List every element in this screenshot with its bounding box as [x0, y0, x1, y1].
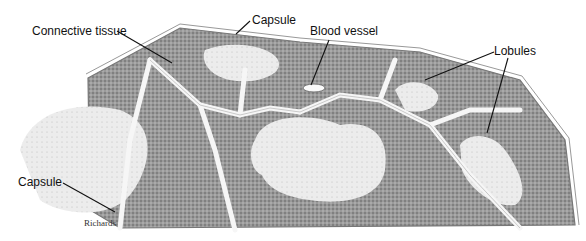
histology-figure: Connective tissue Capsule Blood vessel L…: [0, 0, 586, 241]
label-capsule-top: Capsule: [252, 13, 296, 27]
label-connective-tissue: Connective tissue: [32, 24, 127, 38]
label-lobules: Lobules: [494, 44, 536, 58]
blood-vessel-shape: [303, 84, 325, 92]
artist-signature: Richards: [84, 218, 116, 228]
label-capsule-left: Capsule: [18, 175, 62, 189]
label-blood-vessel: Blood vessel: [310, 24, 378, 38]
